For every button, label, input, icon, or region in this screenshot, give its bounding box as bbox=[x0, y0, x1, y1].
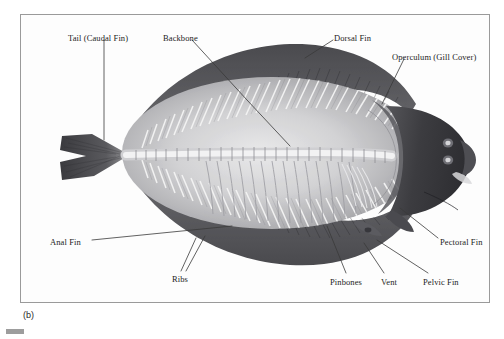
leader-operculum-gill-cover bbox=[382, 59, 404, 104]
label-backbone: Backbone bbox=[163, 33, 198, 43]
leader-backbone bbox=[192, 40, 290, 146]
leader-dorsal-fin bbox=[305, 40, 333, 58]
leader-pinbones bbox=[327, 226, 346, 273]
page-corner-mark bbox=[6, 329, 24, 334]
label-pelvic-fin: Pelvic Fin bbox=[423, 277, 459, 287]
label-anal-fin: Anal Fin bbox=[50, 237, 81, 247]
leader-lines-layer bbox=[0, 0, 504, 339]
label-operculum-gill-cover: Operculum (Gill Cover) bbox=[392, 52, 476, 62]
leader-vent bbox=[364, 243, 384, 273]
label-pectoral-fin: Pectoral Fin bbox=[440, 237, 483, 247]
leader-anal-fin bbox=[92, 226, 232, 240]
leader-pectoral-fin bbox=[400, 208, 438, 238]
label-vent: Vent bbox=[381, 277, 397, 287]
label-ribs: Ribs bbox=[172, 274, 188, 284]
leader-pelvic-fin bbox=[377, 240, 428, 273]
figure-caption: (b) bbox=[23, 310, 34, 320]
figure-root: Tail (Caudal Fin) Backbone Dorsal Fin Op… bbox=[0, 0, 504, 339]
label-tail-caudal-fin: Tail (Caudal Fin) bbox=[68, 33, 128, 43]
label-pinbones: Pinbones bbox=[330, 277, 362, 287]
label-dorsal-fin: Dorsal Fin bbox=[334, 33, 371, 43]
